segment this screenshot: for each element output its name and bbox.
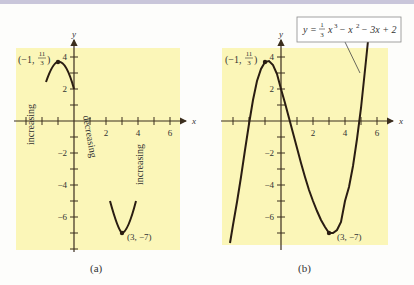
increasing-label-left: increasing (25, 104, 36, 145)
min-point-marker (327, 231, 331, 235)
svg-text:2: 2 (356, 22, 360, 30)
svg-text:(−1,: (−1, (225, 54, 241, 66)
svg-text:): ) (47, 54, 50, 66)
x-tick-label: 6 (375, 128, 380, 138)
increasing-label-right: increasing (134, 144, 145, 185)
panel-b-background (222, 48, 388, 245)
y-tick-label: −4 (57, 180, 67, 190)
max-point-marker (56, 60, 60, 64)
max-point-marker (263, 60, 267, 64)
svg-text:− x: − x (339, 24, 353, 35)
min-point-marker (120, 231, 124, 235)
y-tick-label: 4 (63, 52, 68, 62)
svg-text:11: 11 (246, 50, 253, 58)
min-point-label: (3, −7) (127, 232, 152, 242)
y-axis-label: y (278, 29, 283, 39)
y-tick-label: 2 (270, 84, 275, 94)
figure-canvas: 2 4 6 4 2 −2 −4 −6 x y (−1, 11 3 ) (3, −… (0, 0, 414, 285)
min-point-label: (3, −7) (337, 232, 362, 242)
svg-text:3: 3 (40, 59, 44, 67)
panel-b: 2 4 6 4 2 −2 −4 −6 x y (−1, 11 3 ) (3, −… (221, 17, 403, 250)
x-tick-label: 4 (136, 128, 141, 138)
x-tick-label: 2 (104, 128, 109, 138)
x-tick-label: 6 (168, 128, 173, 138)
caption-a: (a) (90, 262, 102, 274)
svg-text:1: 1 (320, 21, 324, 29)
x-tick-label: 2 (311, 128, 316, 138)
x-axis-label: x (191, 116, 196, 126)
panel-a: 2 4 6 4 2 −2 −4 −6 x y (−1, 11 3 ) (3, −… (14, 29, 196, 252)
x-axis-label: x (398, 116, 403, 126)
svg-text:(−1,: (−1, (18, 54, 34, 66)
svg-text:− 3x + 2: − 3x + 2 (361, 24, 396, 35)
y-tick-label: −6 (57, 212, 67, 222)
y-tick-label: −6 (264, 212, 274, 222)
svg-text:3: 3 (247, 59, 251, 67)
y-tick-label: −2 (264, 148, 274, 158)
svg-text:11: 11 (39, 50, 46, 58)
y-tick-label: −2 (57, 148, 67, 158)
svg-text:y =: y = (302, 24, 317, 35)
svg-text:3: 3 (334, 22, 338, 30)
svg-text:x: x (327, 24, 333, 35)
caption-b: (b) (298, 262, 311, 274)
y-tick-label: 2 (63, 84, 68, 94)
y-axis-label: y (71, 29, 76, 39)
y-tick-label: 4 (270, 52, 275, 62)
x-tick-label: 4 (343, 128, 348, 138)
svg-text:): ) (254, 54, 257, 66)
y-tick-label: −4 (264, 180, 274, 190)
svg-text:3: 3 (320, 31, 324, 39)
